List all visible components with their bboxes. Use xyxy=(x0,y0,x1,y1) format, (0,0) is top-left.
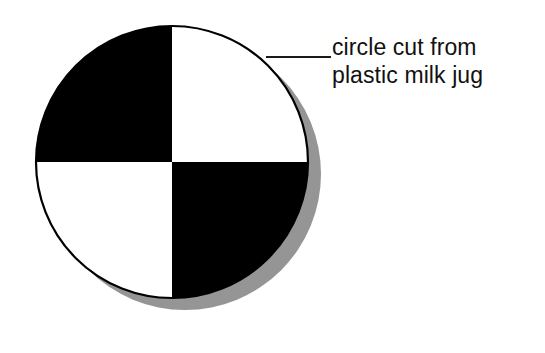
quadrant-upper-right xyxy=(172,26,308,162)
quadrant-lower-right xyxy=(172,162,308,298)
quadrant-lower-left xyxy=(36,162,172,298)
callout-label-line-1: circle cut from xyxy=(332,33,537,61)
callout-label-line-2: plastic milk jug xyxy=(332,61,537,89)
figure-canvas: circle cut from plastic milk jug xyxy=(0,0,545,353)
callout-label: circle cut from plastic milk jug xyxy=(332,33,537,89)
quadrant-upper-left xyxy=(36,26,172,162)
